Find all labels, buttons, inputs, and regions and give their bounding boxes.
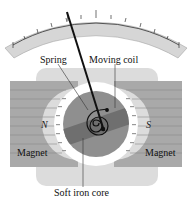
label-north-pole: N bbox=[40, 119, 49, 130]
label-magnet-left: Magnet bbox=[17, 147, 48, 158]
pivot bbox=[101, 127, 105, 131]
label-moving-coil: Moving coil bbox=[89, 54, 138, 65]
label-soft-iron-core: Soft iron core bbox=[54, 187, 110, 198]
label-south-pole: S bbox=[146, 119, 151, 130]
label-magnet-right: Magnet bbox=[145, 147, 176, 158]
scale bbox=[5, 10, 187, 58]
galvanometer-diagram: Spring Moving coil N S Magnet Magnet Sof… bbox=[0, 0, 192, 200]
scale-band bbox=[5, 22, 187, 58]
label-spring: Spring bbox=[40, 54, 67, 65]
